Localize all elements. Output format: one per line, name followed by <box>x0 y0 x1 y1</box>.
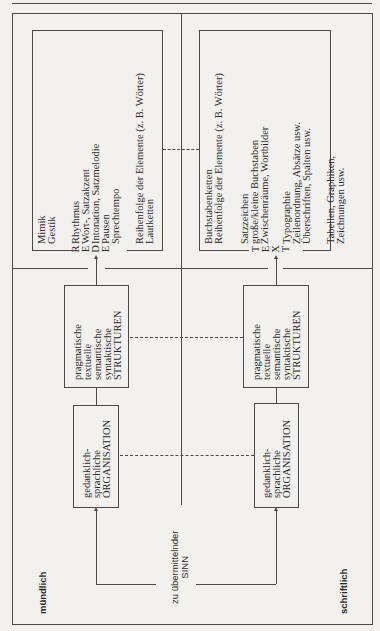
oral-level-separator-left <box>12 268 88 269</box>
feature-text: Überschriften, Spalten usw. <box>302 122 312 244</box>
feature-text: Zeichnungen usw. <box>336 156 346 244</box>
organisation-line: ORGANISATION <box>102 420 112 498</box>
written-features-group1: Buchstabenketten Reihenfolge der Element… <box>204 73 224 244</box>
source-branch-left <box>96 584 156 585</box>
feature-gestik: Gestik <box>47 215 57 244</box>
written-features-box-bottom-left <box>199 250 249 251</box>
arrow-up-icon <box>274 507 278 511</box>
feature-text: Lautketten <box>145 73 155 244</box>
oral-arrow-line <box>96 258 97 285</box>
written-level-separator-right <box>283 268 372 269</box>
oral-organisation-text: gedanklich- sprachliche ORGANISATION <box>82 420 112 498</box>
written-arrow-line <box>276 258 277 285</box>
center-divider <box>181 13 182 505</box>
written-mode-label: schriftlich <box>338 569 349 614</box>
feature-text: Reihenfolge der Elemente (z. B. Wörter) <box>214 73 224 244</box>
page-top-rule <box>12 3 372 4</box>
oral-features-group2: Rhythmus Wort-, Satzakzent Intonation, S… <box>71 144 121 244</box>
strukturen-line: STRUKTUREN <box>113 311 123 380</box>
oral-output-letter: E <box>101 244 111 254</box>
written-link-line <box>276 388 277 403</box>
oral-mode-label: mündlich <box>37 572 48 614</box>
feature-text: Sprechtempo <box>111 144 121 244</box>
arrow-up-icon <box>274 255 278 259</box>
written-source-arrow <box>276 510 277 584</box>
written-features-group2: Satzzeichen große/kleine Buchstaben Zwis… <box>240 127 270 244</box>
source-branch-right <box>196 584 276 585</box>
source-line-2: SINN <box>180 531 190 604</box>
written-features-group4: Tabellen, Graphiken, Zeichnungen usw. <box>326 156 346 244</box>
correspondence-features <box>163 149 199 150</box>
written-strukturen-text: pragmatische textuelle semantische synta… <box>252 311 302 380</box>
correspondence-strukturen <box>130 337 243 338</box>
written-output-letter: T <box>281 244 291 254</box>
oral-features-group1: Mimik Gestik <box>37 215 57 244</box>
written-features-group3: Typographie Zeilenordnung, Absätze usw. … <box>282 122 312 244</box>
written-features-box-bottom-right <box>303 250 331 251</box>
oral-features-box-bottom-right <box>127 250 163 251</box>
oral-features-box-bottom-left <box>32 250 72 251</box>
oral-level-separator-right <box>105 268 181 269</box>
strukturen-line: STRUKTUREN <box>292 311 302 380</box>
arrow-up-icon <box>94 507 98 511</box>
oral-link-line <box>96 388 97 405</box>
source-label: zu übermittelnder SINN <box>170 531 190 604</box>
oral-source-arrow <box>96 510 97 584</box>
organisation-line: ORGANISATION <box>282 420 292 498</box>
written-organisation-text: gedanklich- sprachliche ORGANISATION <box>262 420 292 498</box>
correspondence-organisation <box>120 455 254 456</box>
feature-text: Zwischenräume, Wortbilder <box>260 127 270 244</box>
oral-strukturen-text: pragmatische textuelle semantische synta… <box>73 311 123 380</box>
written-level-separator-left <box>181 268 268 269</box>
oral-features-group3: Reihenfolge der Elemente (z. B. Wörter) … <box>135 73 155 244</box>
arrow-up-icon <box>94 255 98 259</box>
